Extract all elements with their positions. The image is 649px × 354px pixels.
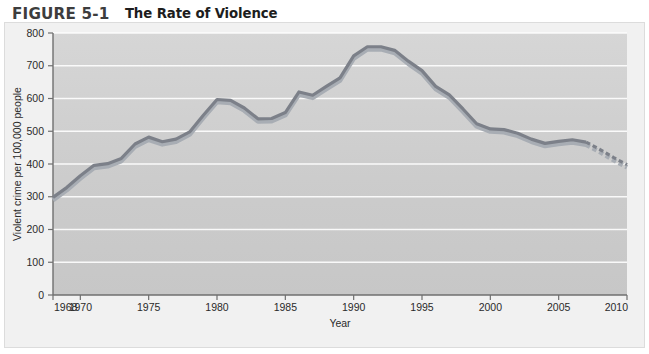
- x-tick-marks-group: [53, 295, 627, 300]
- y-tick-labels-group: 0100200300400500600700800: [26, 27, 44, 301]
- x-tick-label-1990: 1990: [342, 301, 366, 313]
- x-tick-labels-group: 1968197019751980198519901995200020052010: [54, 301, 628, 313]
- figure-root: FIGURE 5-1 The Rate of Violence 01002003…: [0, 0, 649, 354]
- y-tick-label-300: 300: [26, 190, 44, 202]
- x-tick-label-1975: 1975: [137, 301, 161, 313]
- x-tick-label-2005: 2005: [547, 301, 571, 313]
- y-tick-label-600: 600: [26, 92, 44, 104]
- y-tick-label-0: 0: [38, 289, 44, 301]
- y-tick-label-500: 500: [26, 125, 44, 137]
- x-tick-label-1970: 1970: [69, 301, 93, 313]
- x-axis-title: Year: [329, 317, 351, 329]
- x-tick-label-1995: 1995: [410, 301, 434, 313]
- x-tick-label-1985: 1985: [274, 301, 298, 313]
- chart-plot-area: 0100200300400500600700800 19681970197519…: [0, 0, 649, 354]
- x-tick-label-1980: 1980: [205, 301, 229, 313]
- y-tick-marks-group: [48, 33, 53, 295]
- y-tick-label-400: 400: [26, 158, 44, 170]
- y-tick-label-700: 700: [26, 59, 44, 71]
- y-axis-title: Violent crime per 100,000 people: [11, 87, 23, 241]
- y-tick-label-800: 800: [26, 27, 44, 39]
- x-tick-label-2000: 2000: [479, 301, 503, 313]
- y-tick-label-100: 100: [26, 256, 44, 268]
- y-tick-label-200: 200: [26, 223, 44, 235]
- line-chart-svg: 0100200300400500600700800 19681970197519…: [0, 0, 649, 354]
- x-tick-label-2010: 2010: [605, 301, 629, 313]
